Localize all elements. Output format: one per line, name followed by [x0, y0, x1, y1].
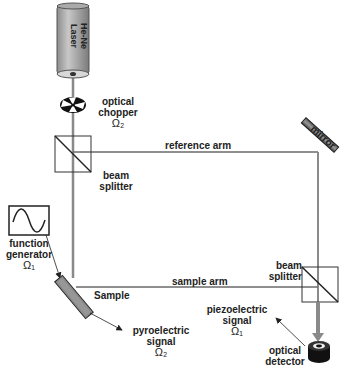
function-generator-label: function generator Ω₁ [2, 238, 56, 271]
bs2-label-line1: beam [258, 260, 302, 271]
laser-label: He-Ne Laser [69, 20, 89, 52]
detector-label: optical detector [262, 345, 308, 367]
chopper-label-line1: optical [92, 96, 144, 107]
optical-setup-diagram [0, 0, 348, 370]
sample-icon [55, 275, 94, 318]
function-generator-icon [9, 206, 49, 235]
bs2-label-line2: splitter [258, 271, 302, 282]
beam-splitter-2-icon [302, 267, 338, 302]
beam-splitter-1-label: beam splitter [94, 170, 138, 192]
bs1-label-line2: splitter [94, 181, 138, 192]
fg-frequency: Ω₁ [2, 260, 56, 271]
detector-label-line2: detector [262, 356, 308, 367]
detector-label-line1: optical [262, 345, 308, 356]
sample-label: Sample [94, 290, 130, 301]
pyroelectric-label: pyroelectric signal Ω₂ [128, 325, 194, 358]
piezoelectric-label: piezoelectric signal Ω₁ [204, 304, 270, 337]
bs1-label-line1: beam [94, 170, 138, 181]
chopper-wheel-icon [60, 97, 86, 113]
piezoelectric-arrow [276, 318, 305, 346]
detector-beam-arrow [312, 302, 324, 342]
reference-arm-label: reference arm [165, 140, 231, 151]
sample-arm-label: sample arm [172, 276, 228, 287]
piezo-label-line1: piezoelectric [204, 304, 270, 315]
laser-label-line2: Laser [69, 20, 79, 52]
pyroelectric-arrow [90, 313, 122, 330]
pyro-frequency: Ω₂ [128, 347, 194, 358]
laser-label-line1: He-Ne [79, 20, 89, 52]
optical-detector-icon [308, 341, 330, 363]
chopper-frequency: Ω₂ [92, 118, 144, 129]
chopper-label: optical chopper Ω₂ [92, 96, 144, 129]
fg-label-line1: function [2, 238, 56, 249]
pyro-label-line1: pyroelectric [128, 325, 194, 336]
piezo-frequency: Ω₁ [204, 326, 270, 337]
beam-splitter-2-label: beam splitter [258, 260, 302, 282]
